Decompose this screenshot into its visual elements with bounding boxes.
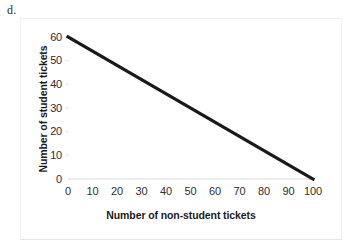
tick-marks bbox=[65, 37, 69, 155]
part-label: d. bbox=[7, 3, 16, 17]
x-tick-label: 100 bbox=[293, 184, 333, 198]
x-axis-title: Number of non-student tickets bbox=[20, 208, 342, 222]
plot-area bbox=[68, 37, 313, 179]
x-axis-tick-labels: 0102030405060708090100 bbox=[68, 184, 313, 200]
plot-svg bbox=[58, 27, 323, 189]
data-series-line bbox=[68, 37, 313, 179]
